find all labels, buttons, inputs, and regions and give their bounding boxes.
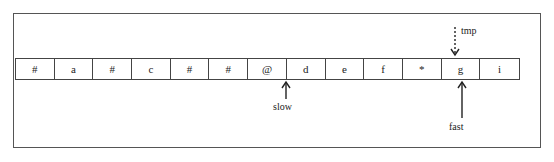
tmp-label: tmp (461, 25, 477, 36)
fast-arrow-icon (458, 82, 466, 118)
slow-label: slow (273, 101, 292, 112)
slow-arrow-icon (282, 82, 290, 99)
fast-label: fast (449, 121, 463, 132)
tmp-arrow-icon (451, 27, 459, 55)
